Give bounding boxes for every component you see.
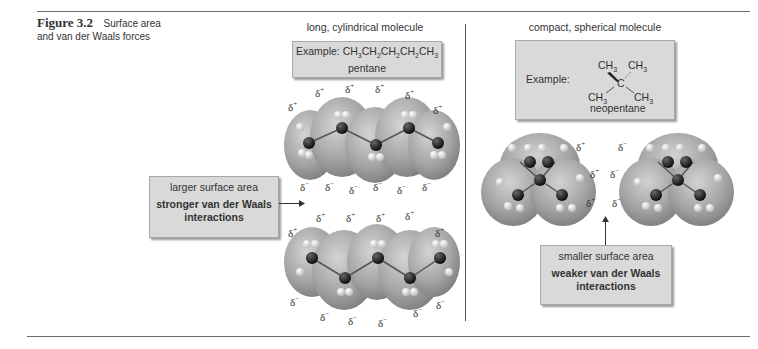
charge-plus: δ+ [433,103,442,116]
charge-minus: δ− [397,183,406,196]
charge-minus: δ− [422,180,431,193]
larger-surface-box: larger surface area stronger van der Waa… [149,176,279,238]
charge-plus: δ+ [586,196,595,209]
arrowhead-up-icon [602,216,609,222]
charge-minus: δ− [300,180,309,193]
stronger-vdw-label: stronger van der Waals [156,198,272,210]
charge-minus: δ− [325,180,334,193]
charge-plus: δ+ [376,211,385,224]
up-arrow [605,220,606,245]
larger-surface-label: larger surface area [170,181,258,193]
pentane-name: pentane [348,62,386,74]
left-heading: long, cylindrical molecule [290,21,440,33]
caption-text-2: and van der Waals forces [37,31,150,42]
charge-plus: δ+ [576,140,585,153]
charge-plus: δ+ [345,82,354,95]
charge-minus: δ− [618,140,627,153]
charge-minus: δ− [378,316,387,329]
charge-minus: δ− [320,310,329,323]
interactions-label-left: interactions [184,211,244,223]
charge-minus: δ− [348,314,357,327]
caption-text-1: Surface area [104,18,161,29]
charge-plus: δ+ [316,211,325,224]
charge-minus: δ− [436,298,445,311]
bottom-rule [27,336,750,337]
charge-plus: δ+ [288,226,297,239]
pentane-example-box: Example: CH3CH2CH2CH2CH3 pentane [292,41,442,78]
charge-plus: δ+ [435,226,444,239]
figure-caption: Figure 3.2 Surface area and van der Waal… [37,16,237,42]
charge-minus: δ− [373,180,382,193]
charge-plus: δ+ [405,209,414,222]
panel-divider [465,24,466,321]
top-rule [37,11,750,12]
charge-minus: δ− [290,295,299,308]
smaller-surface-label: smaller surface area [558,250,653,262]
charge-plus: δ+ [590,167,599,180]
neopentane-example-box: Example: CH3 CH3 C CH3 CH3 neopentane [515,40,675,120]
figure-label: Figure 3.2 [37,15,93,30]
charge-plus: δ+ [346,211,355,224]
charge-minus: δ− [413,306,422,319]
right-heading: compact, spherical molecule [515,21,675,33]
weaker-vdw-label: weaker van der Waals [552,267,661,279]
charge-plus: δ+ [288,100,297,113]
example-prefix: Example: [296,45,340,57]
interactions-label-right: interactions [576,280,636,292]
neopentane-name: neopentane [590,102,645,114]
left-arrow [279,203,301,204]
neopentane-molecule-right [618,130,738,230]
charge-plus: δ+ [315,86,324,99]
charge-plus: δ+ [405,88,414,101]
pentane-formula: CH3CH2CH2CH2CH3 [343,45,438,57]
arrowhead-right-icon [299,200,305,207]
charge-minus: δ− [610,167,619,180]
charge-plus: δ+ [375,82,384,95]
charge-minus: δ− [612,196,621,209]
smaller-surface-box: smaller surface area weaker van der Waal… [540,245,672,305]
charge-minus: δ− [349,183,358,196]
